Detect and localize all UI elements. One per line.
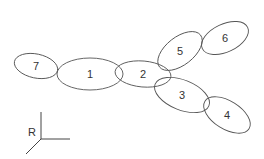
node-label: 3 (179, 89, 185, 101)
node-6: 6 (196, 15, 253, 62)
node-label: 4 (224, 109, 230, 121)
node-label: 7 (33, 60, 39, 72)
node-1: 1 (57, 58, 123, 90)
axis-label: R (28, 126, 36, 138)
axis-diagonal (26, 139, 41, 154)
diagram-canvas: 7125634 R (0, 0, 264, 159)
node-3: 3 (149, 70, 214, 120)
node-5: 5 (151, 24, 209, 78)
node-7: 7 (12, 50, 60, 83)
node-label: 1 (87, 68, 93, 80)
node-label: 2 (140, 68, 146, 80)
node-label: 5 (177, 45, 183, 57)
node-label: 6 (222, 32, 228, 44)
node-4: 4 (198, 89, 257, 140)
